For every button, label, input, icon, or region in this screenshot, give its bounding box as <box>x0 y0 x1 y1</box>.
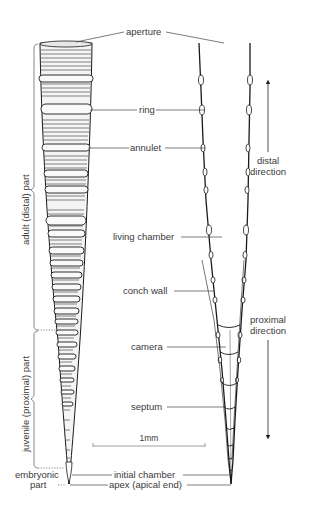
label-scale-1mm: 1mm <box>139 433 160 444</box>
label-juvenile-part: juvenile (proximal) part <box>20 356 31 452</box>
proximal-line1: proximal <box>250 315 286 326</box>
distal-line2: direction <box>250 167 286 178</box>
label-proximal-direction: proximal direction <box>250 315 286 336</box>
label-apex: apex (apical end) <box>108 479 183 490</box>
label-embryonic-part: part <box>29 479 47 490</box>
label-distal-direction: distal direction <box>250 156 286 177</box>
shell-longitudinal-section <box>199 43 253 484</box>
distal-line1: distal <box>250 156 286 167</box>
label-conch-wall: conch wall <box>122 285 168 296</box>
shell-external-view <box>39 41 93 484</box>
conch-diagram <box>0 0 313 506</box>
label-ring: ring <box>138 104 156 115</box>
leader-lines <box>70 32 231 485</box>
label-camera: camera <box>130 341 164 352</box>
proximal-line2: direction <box>250 326 286 337</box>
label-septum: septum <box>130 401 163 412</box>
label-adult-part: adult (distal) part <box>20 174 31 245</box>
label-annulet: annulet <box>129 142 162 153</box>
label-living-chamber: living chamber <box>112 231 175 242</box>
label-aperture: aperture <box>125 26 162 37</box>
